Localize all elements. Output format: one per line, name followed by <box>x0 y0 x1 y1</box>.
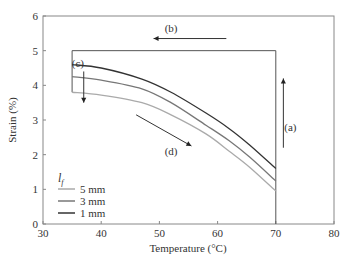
annotation-a: (a) <box>281 78 297 147</box>
y-tick-label: 4 <box>33 79 39 91</box>
x-tick-label: 70 <box>270 227 282 239</box>
x-tick-label: 60 <box>212 227 224 239</box>
series-line-3mm <box>72 77 276 181</box>
arrowhead-icon <box>81 98 86 103</box>
annotation-label: (d) <box>165 145 178 158</box>
legend-title: lf <box>58 171 65 187</box>
x-tick-label: 30 <box>38 227 50 239</box>
y-tick-label: 5 <box>33 45 39 57</box>
arrowhead-icon <box>281 78 286 83</box>
legend-label: 3 mm <box>80 195 106 207</box>
legend-label: 5 mm <box>80 183 106 195</box>
annotation-label: (b) <box>165 22 178 35</box>
legend-entries: 5 mm3 mm1 mm <box>58 183 106 219</box>
annotations: (a)(b)(c)(d) <box>72 22 297 158</box>
strain-temperature-chart: 304050607080 0123456 Temperature (°C) St… <box>0 0 355 262</box>
y-tick-label: 0 <box>33 218 39 230</box>
x-axis-title: Temperature (°C) <box>149 242 227 255</box>
y-axis-title: Strain (%) <box>6 97 19 143</box>
annotation-label: (a) <box>284 121 297 134</box>
legend: lf 5 mm3 mm1 mm <box>58 171 106 219</box>
y-tick-label: 3 <box>33 114 39 126</box>
legend-item: 1 mm <box>58 207 106 219</box>
y-tick-label: 6 <box>33 10 39 22</box>
chart-canvas: 304050607080 0123456 Temperature (°C) St… <box>0 0 355 262</box>
y-axis-ticks: 0123456 <box>33 10 47 230</box>
y-tick-label: 2 <box>33 149 39 161</box>
annotation-b: (b) <box>154 22 227 41</box>
x-tick-label: 40 <box>96 227 108 239</box>
annotation-arrow-line <box>136 115 191 146</box>
annotation-label: (c) <box>72 57 85 70</box>
arrowhead-icon <box>154 36 159 41</box>
y-tick-label: 1 <box>33 183 39 195</box>
legend-item: 3 mm <box>58 195 106 207</box>
x-tick-label: 50 <box>154 227 166 239</box>
legend-label: 1 mm <box>80 207 106 219</box>
legend-item: 5 mm <box>58 183 106 195</box>
annotation-c: (c) <box>72 57 86 103</box>
data-series <box>72 65 276 192</box>
x-tick-label: 80 <box>329 227 341 239</box>
